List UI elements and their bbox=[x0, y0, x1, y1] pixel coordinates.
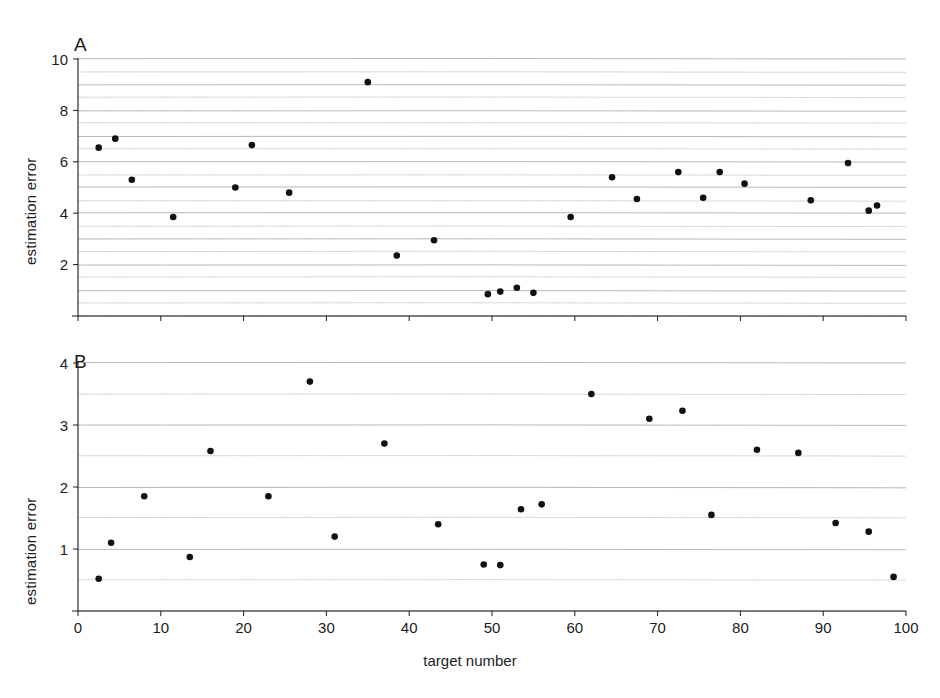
gridline bbox=[78, 175, 906, 176]
panel-a-y-axis-label: estimation error bbox=[22, 158, 39, 265]
gridlines bbox=[78, 362, 906, 611]
data-points bbox=[95, 79, 880, 298]
data-point bbox=[286, 189, 293, 196]
data-point bbox=[95, 575, 102, 582]
gridline bbox=[78, 123, 906, 124]
gridline bbox=[78, 517, 906, 518]
data-point bbox=[807, 197, 814, 204]
x-tick-label: 100 bbox=[893, 619, 918, 636]
data-point bbox=[431, 237, 438, 244]
y-tick-label: 8 bbox=[60, 102, 68, 119]
x-axis-ticks bbox=[78, 316, 906, 321]
data-point bbox=[265, 493, 272, 500]
gridline bbox=[78, 394, 906, 395]
data-point bbox=[435, 521, 442, 528]
gridline bbox=[78, 425, 906, 426]
x-tick-label: 90 bbox=[815, 619, 832, 636]
data-point bbox=[874, 202, 881, 209]
gridline bbox=[78, 213, 906, 214]
gridline bbox=[78, 277, 906, 278]
data-point bbox=[754, 447, 761, 454]
data-point bbox=[865, 207, 872, 214]
y-tick-label: 6 bbox=[60, 153, 68, 170]
data-point bbox=[393, 252, 400, 259]
gridline bbox=[78, 226, 906, 227]
data-point bbox=[129, 176, 136, 183]
data-point bbox=[480, 561, 487, 568]
data-point bbox=[588, 391, 595, 398]
gridline bbox=[78, 580, 906, 581]
panel-a-letter: A bbox=[74, 34, 87, 56]
gridline bbox=[78, 303, 906, 304]
panel-a-plot-area: 246810 bbox=[0, 0, 940, 330]
x-tick-label: 20 bbox=[235, 619, 252, 636]
x-tick-label: 30 bbox=[318, 619, 335, 636]
x-tick-label: 10 bbox=[152, 619, 169, 636]
data-point bbox=[679, 407, 686, 414]
gridline bbox=[78, 251, 906, 252]
x-tick-label: 50 bbox=[484, 619, 501, 636]
gridline bbox=[78, 111, 906, 112]
y-tick-label: 4 bbox=[60, 355, 68, 372]
data-point bbox=[538, 501, 545, 508]
data-point bbox=[845, 160, 852, 167]
figure-container: A estimation error 246810 B estimation e… bbox=[0, 0, 940, 698]
data-point bbox=[675, 169, 682, 176]
data-point bbox=[865, 528, 872, 535]
x-tick-label: 70 bbox=[649, 619, 666, 636]
y-tick-label: 1 bbox=[60, 541, 68, 558]
gridline bbox=[78, 316, 906, 317]
gridline bbox=[78, 362, 906, 363]
gridline bbox=[78, 549, 906, 550]
panel-b-y-axis-label: estimation error bbox=[22, 498, 39, 605]
gridline bbox=[78, 136, 906, 137]
y-tick-label: 2 bbox=[60, 479, 68, 496]
y-tick-label: 3 bbox=[60, 417, 68, 434]
data-point bbox=[381, 440, 388, 447]
data-point bbox=[700, 194, 707, 201]
data-point bbox=[108, 540, 115, 547]
data-point bbox=[832, 520, 839, 527]
data-point bbox=[249, 142, 256, 149]
x-axis-label: target number bbox=[0, 652, 940, 669]
x-tick-label: 60 bbox=[566, 619, 583, 636]
data-point bbox=[95, 144, 102, 151]
gridlines bbox=[78, 58, 906, 316]
gridline bbox=[78, 487, 906, 488]
gridline bbox=[78, 265, 906, 266]
data-point bbox=[497, 562, 504, 569]
x-tick-label: 40 bbox=[401, 619, 418, 636]
gridline bbox=[78, 456, 906, 457]
data-point bbox=[186, 554, 193, 561]
data-point bbox=[567, 214, 574, 221]
data-point bbox=[331, 533, 338, 540]
data-point bbox=[307, 378, 314, 385]
data-points bbox=[95, 378, 896, 582]
gridline bbox=[78, 239, 906, 240]
gridline bbox=[78, 201, 906, 202]
gridline bbox=[78, 85, 906, 86]
x-axis-ticks: 0102030405060708090100 bbox=[74, 611, 919, 636]
y-axis-ticks: 1234 bbox=[60, 355, 78, 558]
panel-b-letter: B bbox=[74, 351, 87, 373]
x-tick-label: 80 bbox=[732, 619, 749, 636]
data-point bbox=[518, 506, 525, 513]
gridline bbox=[78, 58, 906, 59]
gridline bbox=[78, 72, 906, 73]
gridline bbox=[78, 611, 906, 612]
panel-b-plot-area: 12340102030405060708090100 bbox=[0, 330, 940, 698]
data-point bbox=[708, 512, 715, 519]
data-point bbox=[716, 169, 723, 176]
data-point bbox=[497, 288, 504, 295]
x-tick-label: 0 bbox=[74, 619, 82, 636]
data-point bbox=[741, 180, 748, 187]
data-point bbox=[207, 448, 214, 455]
y-tick-label: 2 bbox=[60, 256, 68, 273]
y-tick-label: 4 bbox=[60, 205, 68, 222]
gridline bbox=[78, 291, 906, 292]
gridline bbox=[78, 97, 906, 98]
y-tick-label: 10 bbox=[51, 51, 68, 68]
data-point bbox=[530, 290, 537, 297]
panel-b: B estimation error 123401020304050607080… bbox=[0, 330, 940, 698]
data-point bbox=[609, 174, 616, 181]
